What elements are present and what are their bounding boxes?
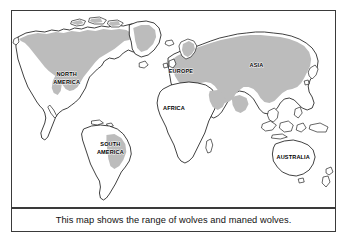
landmass-new-zealand-north xyxy=(326,167,333,175)
label-south-america-line1: SOUTH xyxy=(100,141,120,147)
map-frame: NORTH AMERICA SOUTH AMERICA EUROPE AFRIC… xyxy=(11,10,336,232)
label-south-america-line2: AMERICA xyxy=(97,149,124,155)
label-africa: AFRICA xyxy=(163,105,185,111)
figure-world-range-map: NORTH AMERICA SOUTH AMERICA EUROPE AFRIC… xyxy=(0,0,347,242)
landmass-java xyxy=(271,134,287,139)
landmass-iceland xyxy=(165,40,174,46)
label-asia: ASIA xyxy=(250,62,264,68)
landmass-japan-south xyxy=(304,80,309,85)
label-north-america-line1: NORTH xyxy=(56,71,77,77)
landmass-ireland xyxy=(163,63,168,68)
landmass-borneo xyxy=(279,121,293,132)
landmass-sumatra xyxy=(261,121,276,131)
landmass-sulawesi xyxy=(296,123,306,132)
landmass-new-guinea xyxy=(309,123,328,132)
map-caption: This map shows the range of wolves and m… xyxy=(12,208,335,231)
label-australia: AUSTRALIA xyxy=(277,154,310,160)
landmass-newfoundland xyxy=(139,61,148,68)
landmass-new-zealand-south xyxy=(322,176,330,187)
landmass-madagascar xyxy=(206,139,213,153)
landmass-caribbean xyxy=(92,120,104,125)
label-europe: EUROPE xyxy=(169,68,194,74)
landmass-tasmania xyxy=(298,178,304,183)
landmass-philippines xyxy=(294,107,302,118)
map-canvas: NORTH AMERICA SOUTH AMERICA EUROPE AFRIC… xyxy=(12,11,335,207)
world-map-svg: NORTH AMERICA SOUTH AMERICA EUROPE AFRIC… xyxy=(12,11,335,207)
range-area-india xyxy=(232,95,249,113)
label-north-america-line2: AMERICA xyxy=(53,79,80,85)
